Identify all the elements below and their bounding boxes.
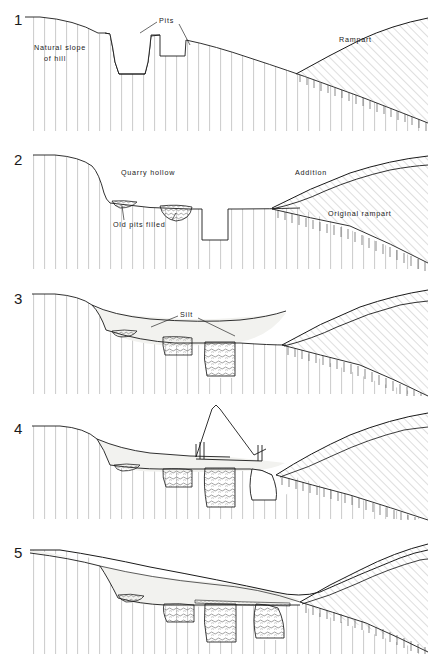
house-eave-right-4 [254, 449, 266, 455]
panel-5-drawing [0, 522, 434, 657]
panel-1-drawing: Natural slope of hill Pits Rampart [0, 0, 434, 140]
silt-label: Silt [180, 310, 193, 319]
house-roof-apex-4 [212, 405, 220, 409]
panel-3: Silt [0, 275, 434, 397]
old-pit-b-filled-3 [163, 337, 192, 355]
panel-number-3: 3 [14, 291, 22, 306]
pit-b-fillmask-1 [160, 36, 185, 56]
house-roof-right-4 [220, 409, 254, 455]
panel-5 [0, 522, 434, 657]
addition-label: Addition [295, 168, 327, 177]
panel-4-drawing [0, 397, 434, 522]
quarry-hollow-label: Quarry hollow [121, 168, 175, 177]
house-structure-4 [196, 405, 266, 461]
natural-slope-label-line2: of hill [44, 54, 66, 63]
panel-number-2: 2 [14, 152, 22, 167]
panel-number-1: 1 [14, 12, 22, 27]
old-pit-c-filled-4 [204, 468, 235, 507]
natural-slope-label-line1: Natural slope [34, 43, 86, 52]
panel-3-drawing: Silt [0, 275, 434, 397]
rampart-label: Rampart [339, 35, 372, 44]
panel-1: Natural slope of hill Pits Rampart [0, 0, 434, 140]
figure-sheet: Natural slope of hill Pits Rampart [0, 0, 434, 657]
panel-2-drawing: Quarry hollow Old pits filled Addition O… [0, 140, 434, 275]
panel-number-4: 4 [14, 421, 22, 436]
new-open-pit-4 [250, 469, 277, 500]
old-pit-b-filled-5 [163, 604, 194, 622]
old-pit-c-filled-5 [204, 604, 236, 642]
panel-2: Quarry hollow Old pits filled Addition O… [0, 140, 434, 275]
old-pits-filled-label: Old pits filled [113, 220, 165, 229]
old-pit-b-filled-4 [163, 469, 192, 487]
panel-4 [0, 397, 434, 522]
panel-number-5: 5 [14, 545, 22, 560]
old-pit-d-filled-5 [254, 604, 284, 638]
original-rampart-label: Original rampart [328, 209, 392, 218]
old-pit-c-filled-3 [204, 342, 235, 376]
pits-label: Pits [159, 16, 174, 25]
